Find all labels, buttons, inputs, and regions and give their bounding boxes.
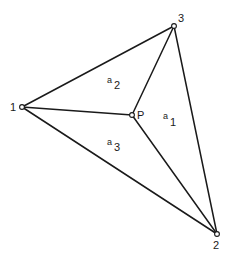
point-p-label: P: [137, 109, 144, 121]
edge-p-1: [22, 107, 132, 115]
region-a2-subscript: 2: [114, 79, 120, 91]
region-a2-label: a 2: [107, 75, 120, 91]
point-p-marker: [130, 113, 135, 118]
vertex-2-marker: [215, 232, 220, 237]
vertex-3-label: 3: [178, 12, 184, 24]
region-a3-letter: a: [107, 137, 112, 147]
region-a2-letter: a: [107, 75, 112, 85]
vertex-3-marker: [172, 24, 177, 29]
region-a1-subscript: 1: [170, 116, 176, 128]
vertex-1-marker: [20, 105, 25, 110]
edge-1-2: [22, 107, 217, 234]
edge-1-3: [22, 26, 174, 107]
vertex-1-label: 1: [10, 101, 16, 113]
vertex-2-label: 2: [213, 239, 219, 251]
region-a3-subscript: 3: [114, 141, 120, 153]
edge-p-3: [132, 26, 174, 115]
region-a1-label: a 1: [163, 111, 176, 128]
region-a1-letter: a: [163, 111, 168, 121]
region-a3-label: a 3: [107, 137, 120, 153]
triangle-diagram: 1 2 3 P a 2 a 1 a 3: [0, 0, 235, 259]
